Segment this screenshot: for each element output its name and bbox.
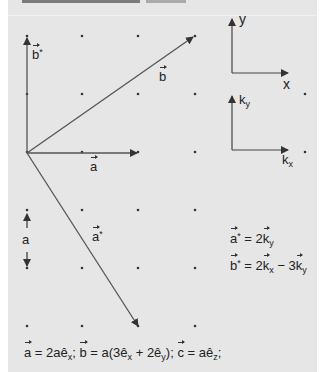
lattice-point	[81, 93, 84, 96]
lattice-point	[194, 151, 197, 154]
lattice-point	[137, 267, 140, 270]
vector-a-star	[27, 153, 138, 326]
lattice-point	[137, 151, 140, 154]
lattice-point	[137, 35, 140, 38]
real-space-axes	[232, 19, 288, 73]
lattice-point	[26, 267, 29, 270]
lattice-point	[194, 209, 197, 212]
label-a-star: a*	[92, 230, 103, 243]
lattice-point	[81, 267, 84, 270]
lattice-point	[194, 35, 197, 38]
label-b: b	[159, 70, 166, 83]
axis-label-ky: ky	[239, 93, 250, 109]
lattice-point	[137, 209, 140, 212]
lattice-point	[194, 267, 197, 270]
equation-b-star: b* = 2kx − 3ky	[230, 258, 307, 275]
lattice-point	[304, 151, 307, 154]
lattice-point	[194, 325, 197, 328]
vector-b	[27, 37, 193, 153]
equation-definitions: a = 2aêx; b = a(3êx + 2êy); c = aêz;	[24, 345, 221, 362]
lattice-point	[81, 209, 84, 212]
axis-label-x: x	[283, 77, 290, 91]
lattice-point	[26, 209, 29, 212]
equation-a-star: a* = 2ky	[230, 231, 274, 248]
lattice-point	[81, 35, 84, 38]
lattice-point	[304, 93, 307, 96]
lattice-point	[81, 325, 84, 328]
lattice-diagram	[0, 0, 323, 372]
label-a: a	[90, 160, 97, 173]
label-b-star: b*	[32, 48, 43, 61]
axis-label-kx: kx	[282, 153, 293, 169]
lattice-point	[26, 35, 29, 38]
axis-label-y: y	[239, 12, 246, 26]
lattice-point	[194, 93, 197, 96]
lattice-point	[26, 325, 29, 328]
label-scale-a: a	[22, 233, 29, 246]
lattice-point	[137, 93, 140, 96]
